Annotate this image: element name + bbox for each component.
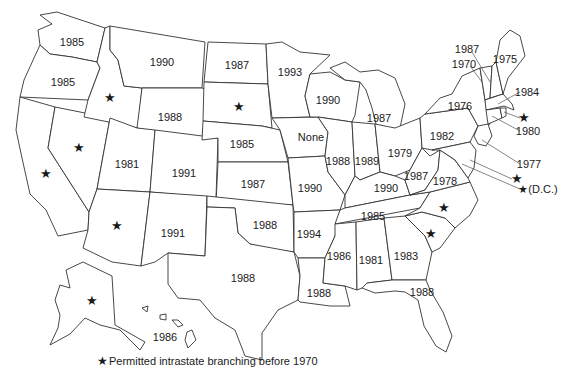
star-icon-nc: ★ — [438, 202, 450, 214]
state-label-ut: 1981 — [115, 158, 139, 170]
state-fl[interactable] — [362, 280, 452, 352]
star-icon-nv: ★ — [73, 142, 85, 154]
state-label-tx: 1988 — [231, 272, 255, 284]
leader-nj — [482, 140, 520, 164]
state-label-mo: 1990 — [298, 182, 322, 194]
star-icon-az: ★ — [111, 220, 123, 232]
state-label-nm: 1991 — [161, 227, 185, 239]
state-label-va: 1978 — [433, 175, 457, 187]
state-label-tn: 1985 — [361, 210, 385, 222]
state-label-ia: None — [298, 131, 324, 143]
state-hi-4[interactable] — [185, 330, 196, 348]
star-icon-ak: ★ — [86, 295, 98, 307]
state-label-ar: 1994 — [297, 228, 321, 240]
state-hi-1[interactable] — [142, 306, 148, 312]
state-label-wa: 1985 — [60, 36, 84, 48]
star-icon-sd: ★ — [233, 101, 245, 113]
legend: ★Permitted intrastate branching before 1… — [97, 354, 318, 368]
state-label-ms: 1986 — [327, 250, 351, 262]
state-label-ok: 1988 — [253, 219, 277, 231]
state-label-nd: 1987 — [225, 59, 249, 71]
state-label-mn: 1993 — [278, 66, 302, 78]
state-hi-2[interactable] — [160, 314, 166, 320]
state-label-hi: 1986 — [153, 331, 177, 343]
state-label-ny: 1976 — [448, 100, 472, 112]
state-ct[interactable] — [486, 108, 502, 124]
star-icon-ca: ★ — [40, 168, 52, 180]
star-icon-id: ★ — [104, 92, 116, 104]
state-label-pa: 1982 — [430, 130, 454, 142]
state-label-me: 1975 — [493, 53, 517, 65]
state-label-la: 1988 — [307, 287, 331, 299]
star-icon: ★ — [97, 354, 108, 368]
state-label-al: 1981 — [359, 254, 383, 266]
state-label-ga: 1983 — [394, 250, 418, 262]
state-label-ks: 1987 — [241, 178, 265, 190]
state-label-nh: 1970 — [452, 58, 476, 70]
state-label-ma: 1984 — [515, 86, 539, 98]
state-hi-3[interactable] — [172, 320, 183, 327]
state-label-or: 1985 — [51, 76, 75, 88]
us-map — [0, 0, 566, 373]
state-co[interactable] — [150, 130, 218, 198]
star-icon-ri: ★ — [518, 112, 530, 124]
state-label-wy: 1988 — [158, 111, 182, 123]
state-label-il: 1988 — [326, 155, 350, 167]
state-label-wv: 1987 — [404, 170, 428, 182]
state-label-mt: 1990 — [150, 56, 174, 68]
state-label-co: 1991 — [172, 167, 196, 179]
state-label-wi: 1990 — [316, 94, 340, 106]
state-label-ky: 1990 — [374, 182, 398, 194]
legend-text: Permitted intrastate branching before 19… — [109, 355, 318, 367]
state-label-nj: 1977 — [517, 158, 541, 170]
state-label-in: 1989 — [355, 155, 379, 167]
state-label-vt: 1987 — [455, 43, 479, 55]
state-label-mi: 1987 — [367, 112, 391, 124]
state-label-ne: 1985 — [230, 138, 254, 150]
state-label-fl: 1988 — [410, 286, 434, 298]
state-label-dc: ★(D.C.) — [518, 183, 557, 195]
state-label-ct: 1980 — [516, 125, 540, 137]
state-label-oh: 1979 — [388, 147, 412, 159]
star-icon-sc: ★ — [425, 228, 437, 240]
